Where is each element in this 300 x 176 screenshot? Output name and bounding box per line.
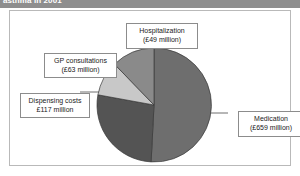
callout-hospitalization: Hospitalization (£49 million)	[126, 23, 198, 49]
pie-slice-dispensing	[97, 95, 154, 162]
callout-dispensing-costs-value: £117 million	[24, 105, 86, 114]
pie-slice-medication	[151, 48, 211, 162]
callout-gp-consultations-value: (£63 million)	[48, 65, 113, 74]
callout-dispensing-costs: Dispensing costs £117 million	[20, 93, 90, 118]
callout-gp-consultations-label: GP consultations	[48, 56, 113, 65]
callout-medication: Medication (£659 million)	[238, 111, 300, 137]
page-title: asthma in 2001	[3, 0, 62, 5]
callout-dispensing-costs-label: Dispensing costs	[24, 96, 86, 105]
callout-gp-consultations: GP consultations (£63 million)	[44, 53, 117, 78]
callout-hospitalization-label: Hospitalization	[130, 26, 194, 35]
chart-screenshot: asthma in 2001	[0, 0, 300, 176]
callout-medication-label: Medication	[242, 114, 300, 123]
callout-medication-value: (£659 million)	[242, 123, 300, 132]
callout-hospitalization-value: (£49 million)	[130, 35, 194, 44]
title-bar: asthma in 2001	[0, 0, 300, 8]
figure-panel: Hospitalization (£49 million) GP consult…	[9, 10, 291, 166]
